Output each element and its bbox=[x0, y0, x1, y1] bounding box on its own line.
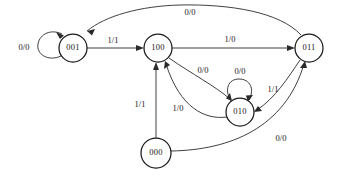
edge-label-011-010: 1/1 bbox=[268, 84, 279, 94]
transition-100-to-010: 0/0 bbox=[169, 58, 232, 101]
transition-010-self: 0/0 bbox=[228, 66, 253, 102]
edge-label-000-100: 1/1 bbox=[135, 99, 146, 109]
edge-label-001-self: 0/0 bbox=[19, 42, 30, 52]
edge-label-011-001: 0/0 bbox=[185, 7, 196, 17]
transition-000-to-100: 1/1 bbox=[135, 62, 159, 138]
transition-011-to-001: 0/0 bbox=[87, 5, 301, 36]
state-label-011: 011 bbox=[302, 42, 315, 52]
state-label-001: 001 bbox=[66, 42, 79, 52]
state-node-011[interactable]: 011 bbox=[295, 34, 323, 62]
fsm-diagram: 0/0 0/0 1/1 1/0 0/0 bbox=[0, 0, 337, 176]
state-node-001[interactable]: 001 bbox=[59, 34, 87, 62]
edge-label-010-self: 0/0 bbox=[235, 66, 246, 76]
transition-011-to-010: 1/1 bbox=[254, 60, 300, 112]
edge-label-100-010: 0/0 bbox=[198, 65, 209, 75]
state-label-000: 000 bbox=[149, 147, 162, 157]
edge-label-010-100: 1/0 bbox=[173, 103, 184, 113]
arrow-head-001-100 bbox=[136, 45, 144, 51]
arrow-head-100-011 bbox=[287, 45, 295, 51]
edge-label-000-011: 0/0 bbox=[276, 133, 287, 143]
edge-label-100-011: 1/0 bbox=[225, 34, 236, 44]
transition-001-self: 0/0 bbox=[19, 32, 64, 58]
state-node-100[interactable]: 100 bbox=[144, 34, 172, 62]
arrow-head-000-100 bbox=[153, 62, 159, 70]
fsm-canvas: 0/0 0/0 1/1 1/0 0/0 bbox=[0, 0, 337, 176]
state-node-000[interactable]: 000 bbox=[141, 138, 171, 168]
edge-label-001-100: 1/1 bbox=[108, 35, 119, 45]
transition-001-to-100: 1/1 bbox=[87, 35, 144, 51]
edge-path-011-010 bbox=[257, 60, 300, 110]
state-label-100: 100 bbox=[151, 42, 164, 52]
state-label-010: 010 bbox=[233, 106, 246, 116]
state-node-010[interactable]: 010 bbox=[226, 98, 254, 126]
transition-100-to-011: 1/0 bbox=[172, 34, 295, 51]
